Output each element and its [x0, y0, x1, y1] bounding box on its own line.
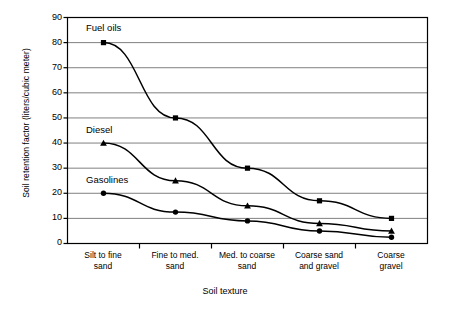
data-point-fuel-oils-4 — [389, 216, 394, 221]
series-layer — [100, 40, 395, 240]
data-point-fuel-oils-0 — [101, 40, 106, 45]
series-line-gasolines — [104, 193, 392, 237]
chart-canvas — [0, 0, 450, 311]
data-point-gasolines-3 — [317, 228, 322, 233]
data-point-gasolines-2 — [245, 218, 250, 223]
data-point-gasolines-4 — [389, 235, 394, 240]
data-point-fuel-oils-3 — [317, 198, 322, 203]
x-axis-ticks — [140, 244, 356, 249]
soil-retention-chart: Soil retention factor (liters/cubic mete… — [0, 0, 450, 311]
series-line-fuel-oils — [104, 43, 392, 219]
data-point-gasolines-1 — [173, 209, 178, 214]
data-point-fuel-oils-1 — [173, 115, 178, 120]
gridlines — [68, 18, 428, 219]
series-line-diesel — [104, 143, 392, 231]
data-point-fuel-oils-2 — [245, 166, 250, 171]
data-point-gasolines-0 — [101, 191, 106, 196]
